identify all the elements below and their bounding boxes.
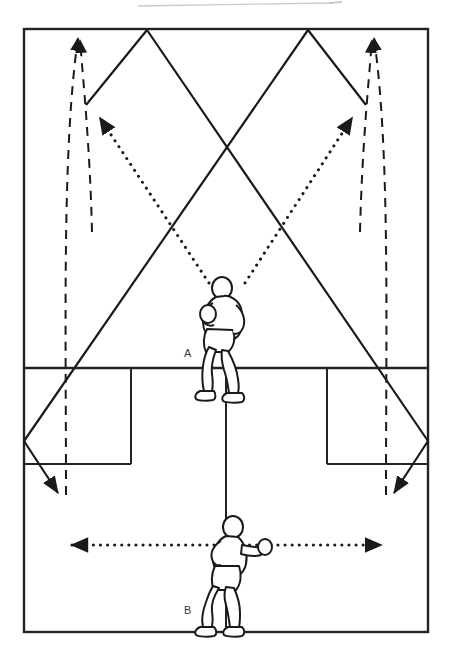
dashed-route-right-outer: [374, 38, 386, 495]
shuttle-rebound-right: [394, 441, 428, 493]
dashed-route-left-outer: [66, 38, 78, 495]
dotted-arrow-a-to-left-rear: [100, 118, 209, 283]
player-b-figure: [195, 516, 272, 637]
diagram-canvas: A B: [0, 0, 452, 652]
dashed-route-left-inner: [80, 40, 92, 232]
dotted-arrow-a-to-right-rear: [245, 118, 352, 283]
dashed-route-right-inner: [360, 40, 372, 232]
player-a-front-leg: [222, 350, 239, 393]
player-b-rear-shoe: [195, 627, 216, 637]
player-b-front-shoe: [223, 627, 244, 637]
shuttle-rebound-left: [24, 441, 58, 493]
player-a-rear-shoe: [195, 391, 215, 401]
shuttle-leg-right-up: [308, 30, 366, 105]
player-a-label: A: [184, 347, 192, 359]
player-a-racket-head: [200, 305, 216, 323]
player-a-front-shoe: [222, 393, 244, 403]
player-b-head: [223, 516, 243, 538]
player-b-racket-head: [258, 539, 272, 555]
scan-line-artifact: [138, 2, 342, 6]
player-b-rear-leg: [202, 586, 219, 627]
player-b-label: B: [184, 604, 191, 616]
badminton-court-diagram: A B: [0, 0, 452, 652]
player-a-figure: [195, 277, 244, 403]
shuttle-leg-left-up: [86, 30, 147, 105]
